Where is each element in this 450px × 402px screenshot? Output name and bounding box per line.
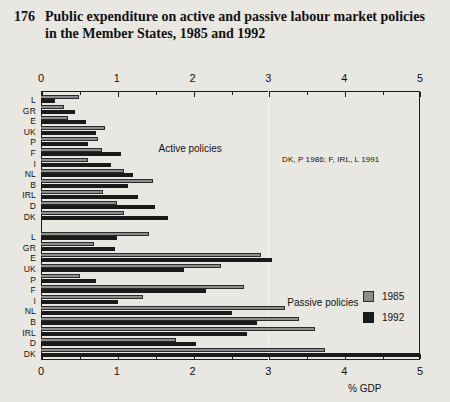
bar-row xyxy=(41,136,420,147)
bar-1985-d xyxy=(41,338,176,342)
bar-1992-l xyxy=(41,236,117,240)
y-label-irl: IRL xyxy=(22,190,36,200)
x-axis-top: 012345 xyxy=(41,72,420,86)
y-label-b: B xyxy=(30,317,36,327)
bar-1985-dk xyxy=(41,348,325,352)
bar-1992-gr xyxy=(41,247,115,251)
y-label-e: E xyxy=(30,253,36,263)
x-tick-label-0: 0 xyxy=(38,365,44,377)
bar-1985-b xyxy=(41,317,299,321)
x-tick-label-4: 4 xyxy=(341,365,347,377)
y-label-uk: UK xyxy=(24,127,36,137)
figure-number: 176 xyxy=(14,8,35,25)
bar-row xyxy=(41,179,420,190)
bar-1985-irl xyxy=(41,190,103,194)
figure-title-block: 176 Public expenditure on active and pas… xyxy=(14,8,438,42)
bar-1985-gr xyxy=(41,105,64,109)
bar-1985-nl xyxy=(41,169,124,173)
legend-item-1992: 1992 xyxy=(363,312,404,323)
bar-1992-uk xyxy=(41,268,184,272)
y-label-p: P xyxy=(30,275,36,285)
y-label-e: E xyxy=(30,116,36,126)
legend: 1985 1992 xyxy=(363,291,404,333)
y-label-gr: GR xyxy=(23,243,36,253)
bar-1992-p xyxy=(41,279,96,283)
bar-1985-d xyxy=(41,201,117,205)
y-label-gr: GR xyxy=(23,106,36,116)
legend-item-1985: 1985 xyxy=(363,291,404,302)
bar-row xyxy=(41,200,420,211)
bar-1992-i xyxy=(41,300,118,304)
note-years: DK, P 1986; F, IRL, L 1991 xyxy=(282,155,379,164)
bar-1992-e xyxy=(41,258,272,262)
x-tick-label-2: 2 xyxy=(190,72,196,84)
bar-row xyxy=(41,337,420,348)
bar-row xyxy=(41,168,420,179)
bar-1985-f xyxy=(41,285,244,289)
bar-1985-p xyxy=(41,274,80,278)
y-label-f: F xyxy=(31,285,36,295)
x-tick-label-3: 3 xyxy=(265,72,271,84)
bar-1985-l xyxy=(41,95,79,99)
bar-1985-dk xyxy=(41,211,124,215)
x-tick-label-5: 5 xyxy=(417,72,423,84)
y-label-f: F xyxy=(31,148,36,158)
x-tick-label-0: 0 xyxy=(38,72,44,84)
y-label-p: P xyxy=(30,137,36,147)
bar-row xyxy=(41,263,420,274)
bar-1992-b xyxy=(41,184,128,188)
x-tick-label-1: 1 xyxy=(114,365,120,377)
y-label-dk: DK xyxy=(24,349,36,359)
axis-tick xyxy=(420,354,421,359)
bar-1985-l xyxy=(41,232,149,236)
bar-row xyxy=(41,105,420,116)
bar-1985-f xyxy=(41,148,102,152)
bar-1992-dk xyxy=(41,216,168,220)
axis-tick xyxy=(420,92,421,97)
bar-row xyxy=(41,189,420,200)
chart-plot-area: Active policies Passive policies DK, P 1… xyxy=(41,91,420,360)
legend-label-1985: 1985 xyxy=(382,291,404,302)
bar-1992-d xyxy=(41,342,196,346)
legend-label-1992: 1992 xyxy=(382,312,404,323)
y-label-i: I xyxy=(33,296,36,306)
y-label-l: L xyxy=(31,232,36,242)
bar-1992-b xyxy=(41,321,257,325)
bar-1985-gr xyxy=(41,242,94,246)
bar-row xyxy=(41,94,420,105)
bar-1985-b xyxy=(41,179,153,183)
bar-row xyxy=(41,348,420,359)
bar-row xyxy=(41,252,420,263)
bar-1985-i xyxy=(41,295,143,299)
bar-row xyxy=(41,231,420,242)
bar-1992-nl xyxy=(41,311,232,315)
y-label-d: D xyxy=(30,338,36,348)
bar-1992-e xyxy=(41,120,86,124)
bar-1992-d xyxy=(41,205,155,209)
y-label-dk: DK xyxy=(24,212,36,222)
y-label-i: I xyxy=(33,159,36,169)
x-tick-label-1: 1 xyxy=(114,72,120,84)
x-tick-label-2: 2 xyxy=(190,365,196,377)
legend-swatch-1985 xyxy=(363,291,374,302)
bar-1985-irl xyxy=(41,327,315,331)
x-tick-label-5: 5 xyxy=(417,365,423,377)
bar-1985-i xyxy=(41,158,88,162)
bar-1985-e xyxy=(41,253,261,257)
bar-row xyxy=(41,126,420,137)
bar-1992-uk xyxy=(41,131,96,135)
bar-1992-f xyxy=(41,152,121,156)
bar-1992-irl xyxy=(41,195,138,199)
section-label-passive: Passive policies xyxy=(287,297,358,308)
bar-1992-nl xyxy=(41,173,133,177)
bar-1985-e xyxy=(41,116,68,120)
bar-1992-f xyxy=(41,289,206,293)
x-tick-label-3: 3 xyxy=(265,365,271,377)
y-label-l: L xyxy=(31,95,36,105)
bar-row xyxy=(41,211,420,222)
bar-1985-nl xyxy=(41,306,285,310)
bar-1992-gr xyxy=(41,110,75,114)
bar-row xyxy=(41,115,420,126)
y-label-irl: IRL xyxy=(22,328,36,338)
page-title: Public expenditure on active and passive… xyxy=(45,8,438,42)
